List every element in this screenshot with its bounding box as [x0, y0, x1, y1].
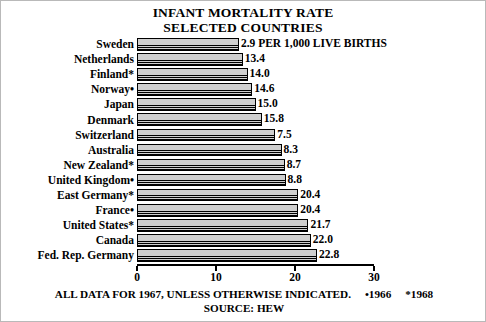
bar-value-label: 20.4 — [300, 188, 320, 202]
bar-value-label: 22.0 — [313, 233, 333, 247]
bar-category-label: East Germany* — [1, 189, 134, 202]
bar-category-label: France• — [1, 204, 134, 217]
bar-value-label: 15.8 — [264, 112, 284, 126]
bar-row: France•20.4 — [1, 203, 486, 218]
x-tick-label: 20 — [289, 271, 301, 283]
bar-fill — [137, 159, 285, 172]
bar-category-label: Denmark — [1, 114, 134, 127]
chart-title-block: INFANT MORTALITY RATE SELECTED COUNTRIES — [1, 1, 485, 35]
bar-row: Australia8.3 — [1, 143, 486, 158]
bar-row: Netherlands13.4 — [1, 52, 486, 67]
chart-page: INFANT MORTALITY RATE SELECTED COUNTRIES… — [0, 0, 486, 322]
bar-row: East Germany*20.4 — [1, 188, 486, 203]
bar-row: Denmark15.8 — [1, 112, 486, 127]
bar-value-label: 8.3 — [284, 143, 298, 157]
bar-fill — [137, 53, 243, 66]
bar-value-label: 21.7 — [310, 218, 330, 232]
bar-category-label: Sweden — [1, 38, 134, 51]
bar — [137, 113, 262, 126]
bar — [137, 98, 256, 111]
bar-fill — [137, 174, 286, 187]
bar-value-label: 15.0 — [258, 97, 278, 111]
bar-category-label: Fed. Rep. Germany — [1, 249, 134, 262]
chart-subtitle: SELECTED COUNTRIES — [1, 20, 485, 35]
bar-category-label: United Kingdom• — [1, 174, 134, 187]
bar — [137, 68, 248, 81]
bar-category-label: Netherlands — [1, 53, 134, 66]
bar — [137, 219, 308, 232]
bar-value-label: 14.6 — [254, 82, 274, 96]
bar-value-label: 8.8 — [288, 173, 302, 187]
bar-value-label: 8.7 — [287, 158, 301, 172]
x-tick-label: 10 — [210, 271, 222, 283]
bar — [137, 204, 298, 217]
bar-category-label: Australia — [1, 144, 134, 157]
x-tick-label: 30 — [368, 271, 380, 283]
bar — [137, 129, 275, 142]
bar-fill — [137, 234, 311, 247]
bar-category-label: Canada — [1, 234, 134, 247]
bar-row: Switzerland7.5 — [1, 128, 486, 143]
bar-row: Finland*14.0 — [1, 67, 486, 82]
bar — [137, 234, 311, 247]
footer-note-1968: *1968 — [405, 288, 433, 300]
bar-row: United States*21.7 — [1, 218, 486, 233]
bar-fill — [137, 249, 317, 262]
bar-row: Japan15.0 — [1, 97, 486, 112]
bar-fill — [137, 189, 298, 202]
bar-row: Sweden2.9 PER 1,000 LIVE BIRTHS — [1, 37, 486, 52]
plot-area: Sweden2.9 PER 1,000 LIVE BIRTHSNetherlan… — [1, 35, 486, 285]
bar-category-label: New Zealand* — [1, 159, 134, 172]
bar-fill — [137, 83, 252, 96]
bar-fill — [137, 113, 262, 126]
bar-fill — [137, 204, 298, 217]
bar — [137, 249, 317, 262]
bar — [137, 144, 282, 157]
bar-fill — [137, 129, 275, 142]
bar-fill — [137, 219, 308, 232]
bar-row: Fed. Rep. Germany22.8 — [1, 248, 486, 263]
bar-value-label: 7.5 — [277, 128, 291, 142]
bar-row: United Kingdom•8.8 — [1, 173, 486, 188]
bar-value-label: 2.9 PER 1,000 LIVE BIRTHS — [241, 37, 387, 51]
bar-fill — [137, 68, 248, 81]
bar-fill — [137, 98, 256, 111]
bar-category-label: Japan — [1, 98, 134, 111]
x-tick-label: 0 — [134, 271, 140, 283]
x-axis-line — [137, 264, 374, 266]
bar-rows: Sweden2.9 PER 1,000 LIVE BIRTHSNetherlan… — [1, 37, 486, 263]
footer-line-1: ALL DATA FOR 1967, UNLESS OTHERWISE INDI… — [1, 287, 486, 301]
bar-category-label: Switzerland — [1, 129, 134, 142]
footer-note-1966: •1966 — [365, 288, 391, 300]
bar — [137, 189, 298, 202]
bar-row: Canada22.0 — [1, 233, 486, 248]
bar-row: Norway•14.6 — [1, 82, 486, 97]
bar-fill — [137, 38, 239, 51]
bar — [137, 159, 285, 172]
chart-footer: ALL DATA FOR 1967, UNLESS OTHERWISE INDI… — [1, 287, 486, 315]
footer-source: SOURCE: HEW — [1, 301, 486, 315]
bar-value-label: 14.0 — [250, 67, 270, 81]
bar-fill — [137, 144, 282, 157]
bar — [137, 53, 243, 66]
bar — [137, 83, 252, 96]
bar-value-label: 13.4 — [245, 52, 265, 66]
bar-row: New Zealand*8.7 — [1, 158, 486, 173]
chart-title: INFANT MORTALITY RATE — [1, 5, 485, 20]
bar-value-label: 22.8 — [319, 248, 339, 262]
bar-category-label: United States* — [1, 219, 134, 232]
footer-note-all-data: ALL DATA FOR 1967, UNLESS OTHERWISE INDI… — [55, 288, 351, 300]
bar — [137, 174, 286, 187]
bar-value-label: 20.4 — [300, 203, 320, 217]
bar-category-label: Norway• — [1, 83, 134, 96]
bar-category-label: Finland* — [1, 68, 134, 81]
bar — [137, 38, 239, 51]
